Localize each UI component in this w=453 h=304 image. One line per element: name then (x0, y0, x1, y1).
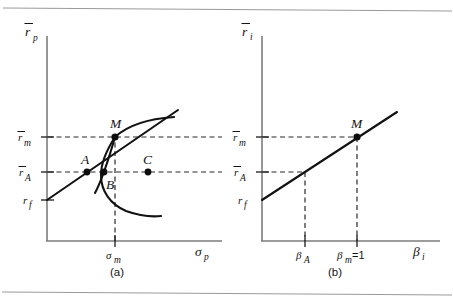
panel-b-ylabel-rf-base: r (238, 194, 243, 206)
panel-b-xlabel-beta-m-sub: m (345, 255, 352, 265)
panel-b-xlabel-beta-m-base: β (336, 249, 343, 261)
panel-b-caption: (b) (328, 266, 342, 278)
panel-a-ylabel-rm-base: r (18, 131, 23, 143)
panel-b: r i β i r m r A (233, 24, 441, 279)
panel-b-point-M-label: M (350, 116, 363, 131)
panel-b-ylabel-rf: r f (238, 194, 248, 210)
panel-b-ylabel-rA-sub: A (239, 173, 246, 183)
panel-a-y-axis-label-base: r (25, 24, 31, 39)
figure-container: r p σ p r m r A (0, 0, 453, 304)
bottom-rule (2, 292, 452, 295)
panel-b-ylabel-rf-sub: f (244, 200, 248, 210)
panel-b-ylabel-rA-base: r (234, 166, 239, 178)
panel-b-ylabel-rm: r m (233, 131, 247, 148)
panel-a-xlabel-sigma-m-base: σ (106, 249, 112, 261)
panel-b-y-axis-label-sub: i (250, 32, 253, 42)
panel-b-xlabel-beta-A-base: β (295, 249, 302, 261)
panel-b-x-axis-label: β i (412, 244, 425, 262)
panel-a-ylabel-rm-sub: m (24, 138, 31, 148)
panel-a-y-axis-label-sub: p (32, 33, 38, 43)
panel-a-point-C-label: C (143, 152, 153, 167)
panel-a-ylabel-rm: r m (18, 131, 32, 148)
panel-a-ylabel-rf-sub: f (29, 200, 33, 210)
panel-a-x-axis-label-base: σ (195, 244, 203, 259)
panel-a-ylabel-rf: r f (23, 194, 33, 210)
panel-b-point-M-dot (353, 133, 360, 140)
panel-a-point-B-label: B (106, 177, 114, 192)
panel-b-security-market-line (262, 112, 397, 200)
panel-a-ylabel-rA: r A (19, 166, 32, 183)
panel-b-y-axis-label-base: r (242, 24, 248, 39)
panel-b-x-axis-label-sub: i (422, 252, 425, 262)
panel-a: r p σ p r m r A (18, 24, 223, 279)
panel-a-point-A-label: A (80, 152, 90, 167)
panel-a-ylabel-rA-sub: A (24, 173, 31, 183)
panel-b-x-axis-label-base: β (412, 244, 420, 259)
panel-a-y-axis-label: r p (25, 24, 39, 44)
panel-a-point-B-dot (101, 169, 108, 176)
panel-b-xlabel-beta-m-suffix: =1 (352, 249, 365, 261)
panel-b-y-axis-label: r i (242, 24, 254, 43)
panel-a-x-axis-label: σ p (195, 244, 209, 262)
top-rule (3, 8, 452, 11)
panel-a-xlabel-sigma-m: σ m (106, 249, 121, 265)
panel-b-xlabel-beta-A: β A (295, 249, 310, 265)
panel-b-xlabel-beta-m: β m =1 (336, 249, 365, 265)
panel-a-point-M-label: M (109, 116, 122, 131)
panel-b-ylabel-rm-sub: m (239, 138, 246, 148)
panel-b-xlabel-beta-A-sub: A (303, 255, 310, 265)
panel-a-ylabel-rA-base: r (19, 166, 24, 178)
textbook-figure: r p σ p r m r A (0, 0, 453, 304)
panel-a-point-A-dot (84, 169, 91, 176)
panel-a-xlabel-sigma-m-sub: m (114, 255, 121, 265)
panel-b-ylabel-rA: r A (234, 166, 247, 183)
panel-b-ylabel-rm-base: r (233, 131, 238, 143)
panel-a-point-M-dot (111, 133, 118, 140)
panel-a-caption: (a) (110, 266, 124, 278)
panel-a-ylabel-rf-base: r (23, 194, 28, 206)
panel-a-point-C-dot (145, 169, 152, 176)
panel-a-x-axis-label-sub: p (203, 252, 209, 262)
